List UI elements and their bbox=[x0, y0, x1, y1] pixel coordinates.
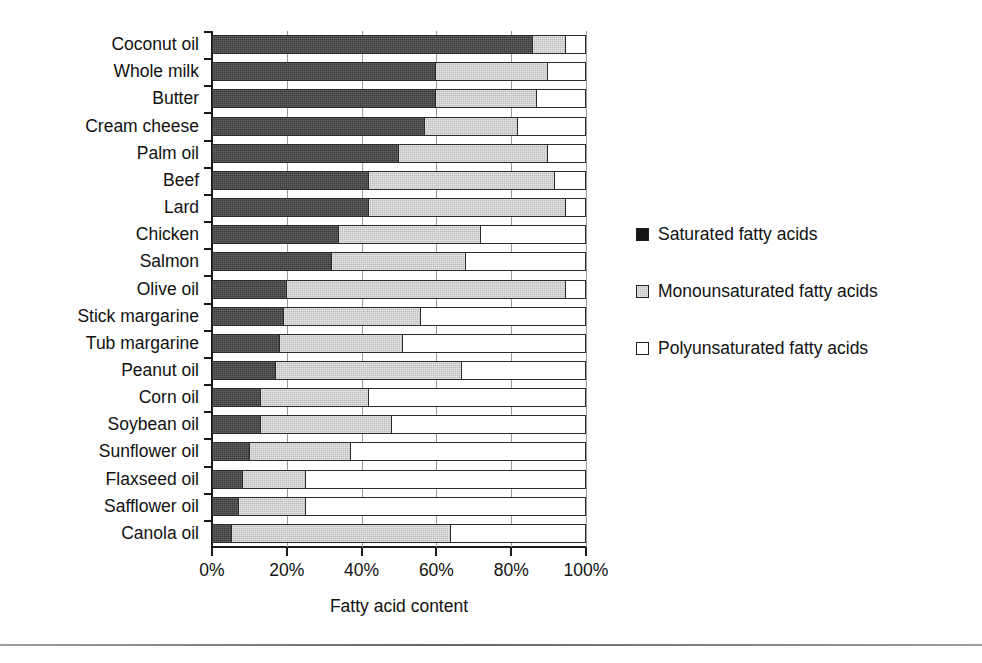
bar-segment-saturated[interactable] bbox=[213, 471, 243, 488]
stacked-bar[interactable] bbox=[212, 497, 586, 516]
x-axis-tick-label: 0% bbox=[199, 560, 224, 580]
chart-bar-row[interactable]: Olive oil bbox=[212, 280, 586, 299]
bar-segment-saturated[interactable] bbox=[213, 145, 399, 162]
stacked-bar[interactable] bbox=[212, 35, 586, 54]
stacked-bar[interactable] bbox=[212, 62, 586, 81]
chart-bar-row[interactable]: Butter bbox=[212, 89, 586, 108]
bar-segment-saturated[interactable] bbox=[213, 308, 284, 325]
bar-segment-monounsaturated[interactable] bbox=[243, 471, 306, 488]
stacked-bar[interactable] bbox=[212, 334, 586, 353]
bar-segment-polyunsaturated[interactable] bbox=[369, 389, 585, 406]
bar-segment-polyunsaturated[interactable] bbox=[537, 90, 585, 107]
x-axis-tick bbox=[510, 547, 512, 556]
bar-segment-saturated[interactable] bbox=[213, 498, 239, 515]
bar-segment-monounsaturated[interactable] bbox=[436, 63, 548, 80]
bar-segment-polyunsaturated[interactable] bbox=[566, 199, 585, 216]
chart-bar-row[interactable]: Soybean oil bbox=[212, 415, 586, 434]
bar-segment-polyunsaturated[interactable] bbox=[462, 362, 585, 379]
bar-segment-saturated[interactable] bbox=[213, 389, 261, 406]
stacked-bar[interactable] bbox=[212, 252, 586, 271]
bar-segment-polyunsaturated[interactable] bbox=[566, 36, 585, 53]
chart-bar-row[interactable]: Coconut oil bbox=[212, 35, 586, 54]
bar-segment-monounsaturated[interactable] bbox=[339, 226, 480, 243]
chart-bar-row[interactable]: Whole milk bbox=[212, 62, 586, 81]
bar-segment-polyunsaturated[interactable] bbox=[566, 281, 585, 298]
stacked-bar[interactable] bbox=[212, 280, 586, 299]
bar-segment-polyunsaturated[interactable] bbox=[403, 335, 585, 352]
bar-segment-saturated[interactable] bbox=[213, 172, 369, 189]
chart-bar-row[interactable]: Flaxseed oil bbox=[212, 470, 586, 489]
bar-segment-saturated[interactable] bbox=[213, 525, 232, 542]
bar-segment-monounsaturated[interactable] bbox=[369, 172, 555, 189]
chart-bar-row[interactable]: Salmon bbox=[212, 252, 586, 271]
stacked-bar[interactable] bbox=[212, 524, 586, 543]
bar-segment-monounsaturated[interactable] bbox=[332, 253, 466, 270]
stacked-bar[interactable] bbox=[212, 470, 586, 489]
bar-segment-saturated[interactable] bbox=[213, 118, 425, 135]
stacked-bar[interactable] bbox=[212, 117, 586, 136]
bar-segment-polyunsaturated[interactable] bbox=[392, 416, 585, 433]
chart-bar-row[interactable]: Peanut oil bbox=[212, 361, 586, 380]
bar-segment-monounsaturated[interactable] bbox=[533, 36, 566, 53]
stacked-bar[interactable] bbox=[212, 388, 586, 407]
bar-segment-saturated[interactable] bbox=[213, 416, 261, 433]
bar-segment-monounsaturated[interactable] bbox=[239, 498, 306, 515]
bar-segment-polyunsaturated[interactable] bbox=[518, 118, 585, 135]
stacked-bar[interactable] bbox=[212, 89, 586, 108]
bar-segment-monounsaturated[interactable] bbox=[276, 362, 462, 379]
bar-segment-monounsaturated[interactable] bbox=[369, 199, 566, 216]
chart-bar-row[interactable]: Stick margarine bbox=[212, 307, 586, 326]
bar-segment-polyunsaturated[interactable] bbox=[306, 471, 585, 488]
stacked-bar[interactable] bbox=[212, 361, 586, 380]
bar-segment-saturated[interactable] bbox=[213, 63, 436, 80]
bar-segment-polyunsaturated[interactable] bbox=[421, 308, 585, 325]
bar-segment-saturated[interactable] bbox=[213, 90, 436, 107]
x-axis-tick bbox=[361, 547, 363, 556]
chart-bar-row[interactable]: Cream cheese bbox=[212, 117, 586, 136]
stacked-bar[interactable] bbox=[212, 307, 586, 326]
chart-bar-row[interactable]: Chicken bbox=[212, 225, 586, 244]
bar-segment-polyunsaturated[interactable] bbox=[548, 63, 585, 80]
stacked-bar[interactable] bbox=[212, 171, 586, 190]
stacked-bar[interactable] bbox=[212, 225, 586, 244]
chart-bar-row[interactable]: Beef bbox=[212, 171, 586, 190]
bar-segment-polyunsaturated[interactable] bbox=[481, 226, 585, 243]
bar-segment-polyunsaturated[interactable] bbox=[548, 145, 585, 162]
stacked-bar[interactable] bbox=[212, 198, 586, 217]
chart-bar-row[interactable]: Canola oil bbox=[212, 524, 586, 543]
stacked-bar[interactable] bbox=[212, 415, 586, 434]
stacked-bar[interactable] bbox=[212, 442, 586, 461]
category-label: Butter bbox=[152, 88, 199, 109]
bar-segment-saturated[interactable] bbox=[213, 36, 533, 53]
bar-segment-monounsaturated[interactable] bbox=[232, 525, 451, 542]
stacked-bar[interactable] bbox=[212, 144, 586, 163]
plot-area: 0%20%40%60%80%100%Coconut oilWhole milkB… bbox=[212, 31, 586, 547]
bar-segment-saturated[interactable] bbox=[213, 199, 369, 216]
bar-segment-polyunsaturated[interactable] bbox=[466, 253, 585, 270]
bar-segment-polyunsaturated[interactable] bbox=[555, 172, 585, 189]
bar-segment-polyunsaturated[interactable] bbox=[451, 525, 585, 542]
bar-segment-polyunsaturated[interactable] bbox=[351, 443, 585, 460]
bar-segment-monounsaturated[interactable] bbox=[280, 335, 403, 352]
bar-segment-saturated[interactable] bbox=[213, 253, 332, 270]
bar-segment-monounsaturated[interactable] bbox=[399, 145, 548, 162]
bar-segment-monounsaturated[interactable] bbox=[250, 443, 350, 460]
bar-segment-saturated[interactable] bbox=[213, 443, 250, 460]
chart-bar-row[interactable]: Corn oil bbox=[212, 388, 586, 407]
bar-segment-polyunsaturated[interactable] bbox=[306, 498, 585, 515]
chart-bar-row[interactable]: Tub margarine bbox=[212, 334, 586, 353]
bar-segment-monounsaturated[interactable] bbox=[436, 90, 536, 107]
bar-segment-monounsaturated[interactable] bbox=[287, 281, 566, 298]
bar-segment-saturated[interactable] bbox=[213, 281, 287, 298]
bar-segment-saturated[interactable] bbox=[213, 362, 276, 379]
bar-segment-monounsaturated[interactable] bbox=[261, 416, 391, 433]
chart-bar-row[interactable]: Lard bbox=[212, 198, 586, 217]
bar-segment-monounsaturated[interactable] bbox=[284, 308, 422, 325]
chart-bar-row[interactable]: Palm oil bbox=[212, 144, 586, 163]
bar-segment-saturated[interactable] bbox=[213, 226, 339, 243]
bar-segment-saturated[interactable] bbox=[213, 335, 280, 352]
chart-bar-row[interactable]: Safflower oil bbox=[212, 497, 586, 516]
bar-segment-monounsaturated[interactable] bbox=[261, 389, 369, 406]
bar-segment-monounsaturated[interactable] bbox=[425, 118, 518, 135]
chart-bar-row[interactable]: Sunflower oil bbox=[212, 442, 586, 461]
